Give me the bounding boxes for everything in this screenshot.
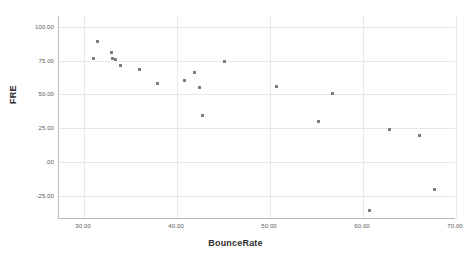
- y-tick-label: 50.00: [38, 91, 54, 97]
- data-point: [92, 57, 95, 60]
- y-tick-label: 100.00: [35, 24, 54, 30]
- data-point: [275, 85, 278, 88]
- data-point: [183, 79, 186, 82]
- gridline-vertical: [84, 16, 85, 218]
- x-tick-label: 50.00: [261, 223, 277, 229]
- data-point: [317, 120, 320, 123]
- gridline-horizontal: [59, 162, 455, 163]
- y-tick-label: -25.00: [36, 193, 54, 199]
- x-axis-tick-labels: 30.0040.0050.0060.0070.00: [58, 223, 455, 235]
- x-tick-label: 60.00: [354, 223, 370, 229]
- data-point: [223, 60, 226, 63]
- data-point: [368, 209, 371, 212]
- data-point: [96, 40, 99, 43]
- data-point: [198, 86, 201, 89]
- gridline-vertical: [363, 16, 364, 218]
- scatter-chart: -25.00.0025.0050.0075.00100.00 30.0040.0…: [0, 0, 471, 258]
- gridline-horizontal: [59, 94, 455, 95]
- data-point: [388, 128, 391, 131]
- gridline-horizontal: [59, 128, 455, 129]
- y-axis-tick-labels: -25.00.0025.0050.0075.00100.00: [0, 16, 54, 219]
- y-tick-label: .00: [45, 159, 54, 165]
- data-point: [138, 68, 141, 71]
- data-point: [331, 92, 334, 95]
- gridline-vertical: [270, 16, 271, 218]
- x-tick-label: 40.00: [168, 223, 184, 229]
- gridline-horizontal: [59, 196, 455, 197]
- x-tick-label: 30.00: [75, 223, 91, 229]
- data-point: [114, 58, 117, 61]
- plot-area: [58, 16, 455, 219]
- y-tick-label: 75.00: [38, 58, 54, 64]
- x-tick-label: 70.00: [447, 223, 463, 229]
- gridline-vertical: [177, 16, 178, 218]
- y-axis-title: FRE: [8, 85, 18, 104]
- data-point: [418, 134, 421, 137]
- data-point: [156, 82, 159, 85]
- data-point: [119, 64, 122, 67]
- data-point: [110, 51, 113, 54]
- y-tick-label: 25.00: [38, 125, 54, 131]
- x-axis-title: BounceRate: [0, 238, 471, 248]
- gridline-horizontal: [59, 61, 455, 62]
- gridline-vertical: [456, 16, 457, 218]
- data-point: [433, 188, 436, 191]
- gridline-horizontal: [59, 27, 455, 28]
- data-point: [193, 71, 196, 74]
- data-point: [201, 114, 204, 117]
